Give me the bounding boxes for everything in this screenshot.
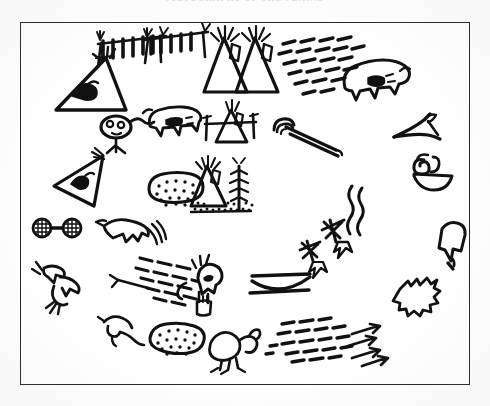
glyph-dash-field-mid — [110, 258, 204, 305]
pictograph-plate: PICTOGRAPHS OF THE PLAINS — [0, 0, 490, 406]
glyph-dotted-hide-upper — [149, 173, 203, 207]
glyph-wavy-smoke — [348, 186, 364, 235]
glyph-bow-curve — [250, 274, 310, 293]
glyph-bird-with-plumes — [96, 220, 166, 244]
glyph-crouching-animal — [98, 317, 144, 346]
glyph-dash-field-top — [279, 37, 364, 94]
glyph-pouch — [439, 223, 465, 269]
glyph-pipe — [274, 119, 342, 156]
glyph-hide-square — [393, 278, 440, 316]
glyph-masked-head — [101, 109, 154, 153]
glyph-tipi-with-tree — [191, 156, 254, 212]
glyph-dotted-hide-lower — [150, 323, 204, 355]
glyph-tipi-on-rack — [203, 100, 258, 142]
glyph-crossed-poles — [394, 114, 440, 139]
glyph-antlered-animal — [210, 330, 261, 374]
glyph-arrow-figure — [32, 262, 79, 314]
glyph-dash-arrow-field — [266, 318, 388, 366]
glyph-bison — [344, 60, 410, 100]
pictograph-artwork — [0, 0, 490, 406]
glyph-bear — [149, 107, 201, 136]
glyph-spiral-and-bowl — [414, 155, 452, 190]
glyph-dumbbell — [33, 219, 81, 237]
glyph-tipi-with-bird-emblem — [56, 47, 126, 110]
glyph-tipi-with-fish-emblem — [54, 148, 104, 206]
glyph-starbursts — [300, 220, 352, 278]
